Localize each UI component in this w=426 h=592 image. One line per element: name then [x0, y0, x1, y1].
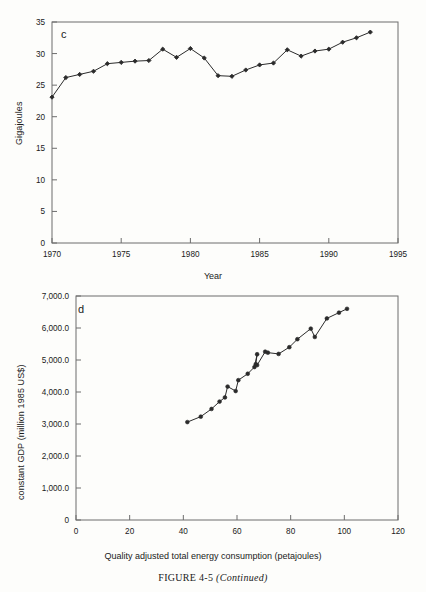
panel-d-ytick-label-5000: 5,000.0 [42, 356, 70, 365]
panel-d-data-point [236, 378, 240, 382]
panel-d-xtick-label-0: 0 [74, 527, 79, 536]
panel-c-data-point [105, 62, 109, 66]
panel-c-data-point [258, 63, 262, 67]
panel-d-data-point [234, 389, 238, 393]
panel-c-xlabel: Year [0, 271, 426, 281]
panel-d-ytick-label-1000: 1,000.0 [42, 484, 70, 493]
panel-d-data-point [277, 352, 281, 356]
panel-c-ytick-label-10: 10 [36, 176, 46, 185]
panel-d-data-point [309, 327, 313, 331]
panel-c-data-point [327, 47, 331, 51]
panel-c-ytick-label-30: 30 [36, 50, 46, 59]
panel-c-data-point [119, 60, 123, 64]
panel-c-data-point [354, 36, 358, 40]
panel-c-data-point [244, 68, 248, 72]
chart-panel-d: constant GDP (million 1985 US$) 01,000.0… [0, 288, 426, 573]
figure-page: Gigajoules 05101520253035197019751980198… [0, 0, 426, 592]
panel-d-xtick-label-20: 20 [125, 527, 135, 536]
panel-c-data-point [299, 54, 303, 58]
panel-d-xtick-label-120: 120 [391, 527, 405, 536]
chart-panel-c: Gigajoules 05101520253035197019751980198… [0, 0, 426, 285]
panel-c-series-line [52, 32, 370, 97]
panel-c-letter: c [61, 28, 67, 40]
panel-d-plot: 01,000.02,000.03,000.04,000.05,000.06,00… [0, 288, 426, 548]
panel-d-data-point [210, 407, 214, 411]
panel-c-xtick-label-1975: 1975 [112, 250, 131, 259]
panel-d-data-point [337, 311, 341, 315]
panel-d-data-point [218, 400, 222, 404]
figure-caption: FIGURE 4-5 (Continued) [0, 572, 426, 583]
panel-d-plot-frame [76, 296, 398, 520]
figure-caption-number: FIGURE 4-5 [158, 572, 213, 583]
panel-d-ytick-label-6000: 6,000.0 [42, 324, 70, 333]
panel-c-data-point [368, 30, 372, 34]
panel-c-data-point [78, 72, 82, 76]
panel-c-xtick-label-1985: 1985 [250, 250, 269, 259]
panel-c-data-point [91, 69, 95, 73]
panel-c-ytick-label-5: 5 [40, 207, 45, 216]
panel-c-plot: 05101520253035197019751980198519901995 [0, 0, 426, 285]
panel-d-data-point [255, 352, 259, 356]
panel-c-ytick-label-15: 15 [36, 144, 46, 153]
panel-c-ytick-label-25: 25 [36, 81, 46, 90]
panel-d-ytick-label-0: 0 [64, 516, 69, 525]
panel-d-data-point [185, 420, 189, 424]
panel-d-data-point [313, 335, 317, 339]
panel-d-series-line [187, 309, 347, 422]
panel-d-xlabel: Quality adjusted total energy consumptio… [0, 551, 426, 561]
panel-d-data-point [199, 415, 203, 419]
panel-d-data-point [266, 351, 270, 355]
panel-c-xtick-label-1995: 1995 [389, 250, 408, 259]
panel-c-xtick-label-1990: 1990 [320, 250, 339, 259]
panel-d-xtick-label-60: 60 [232, 527, 242, 536]
panel-d-xtick-label-80: 80 [286, 527, 296, 536]
panel-c-ylabel: Gigajoules [14, 101, 24, 145]
panel-d-data-point [295, 337, 299, 341]
panel-c-plot-frame [52, 22, 398, 243]
panel-d-data-point [223, 396, 227, 400]
panel-c-ytick-label-35: 35 [36, 18, 46, 27]
panel-c-xtick-label-1970: 1970 [43, 250, 62, 259]
panel-d-data-point [325, 317, 329, 321]
panel-d-data-point [287, 345, 291, 349]
panel-d-data-point [246, 372, 250, 376]
panel-d-xtick-label-100: 100 [337, 527, 351, 536]
panel-d-ytick-label-3000: 3,000.0 [42, 420, 70, 429]
panel-d-ytick-label-2000: 2,000.0 [42, 452, 70, 461]
panel-c-data-point [230, 74, 234, 78]
panel-d-data-point [226, 385, 230, 389]
panel-c-data-point [313, 49, 317, 53]
panel-d-xtick-label-40: 40 [179, 527, 189, 536]
panel-d-ytick-label-7000: 7,000.0 [42, 292, 70, 301]
panel-c-data-point [133, 59, 137, 63]
panel-d-ytick-label-4000: 4,000.0 [42, 388, 70, 397]
panel-d-letter: d [78, 303, 84, 315]
panel-c-xtick-label-1980: 1980 [181, 250, 200, 259]
panel-c-ytick-label-0: 0 [40, 239, 45, 248]
panel-c-data-point [341, 40, 345, 44]
panel-c-ytick-label-20: 20 [36, 113, 46, 122]
panel-d-data-point [255, 363, 259, 367]
panel-d-ylabel: constant GDP (million 1985 US$) [16, 365, 26, 501]
figure-caption-continued: (Continued) [216, 572, 268, 583]
panel-d-data-point [345, 307, 349, 311]
